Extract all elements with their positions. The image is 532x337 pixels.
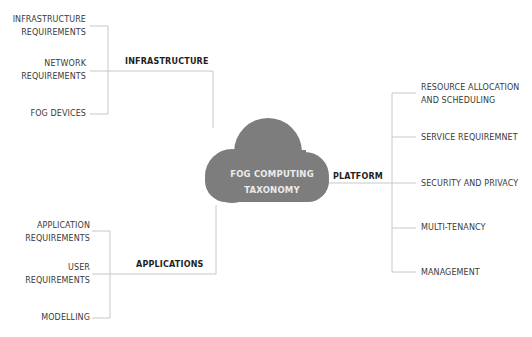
item-line: MODELLING [41, 311, 90, 324]
item-line: MANAGEMENT [421, 266, 480, 279]
category-applications: APPLICATIONS [136, 260, 204, 269]
item-line: REQUIREMENTS [25, 274, 90, 287]
item-line: SERVICE REQUIREMNET [421, 131, 518, 144]
center-node-label: FOG COMPUTING TAXONOMY [222, 166, 322, 198]
item-service-requirement: SERVICE REQUIREMNET [421, 131, 518, 144]
item-application-requirements: APPLICATION REQUIREMENTS [25, 219, 90, 245]
category-platform: PLATFORM [333, 172, 383, 181]
item-line: APPLICATION [25, 219, 90, 232]
item-infrastructure-requirements: INFRASTRUCTURE REQUIREMENTS [13, 13, 86, 39]
platform-ticks [392, 93, 416, 272]
item-line: FOG DEVICES [30, 107, 86, 120]
item-network-requirements: NETWORK REQUIREMENTS [21, 57, 86, 83]
item-line: RESOURCE ALLOCATION [421, 81, 519, 94]
item-line: AND SCHEDULING [421, 94, 519, 107]
item-line: INFRASTRUCTURE [13, 13, 86, 26]
infrastructure-bracket [90, 26, 108, 114]
item-fog-devices: FOG DEVICES [30, 107, 86, 120]
item-line: MULTI-TENANCY [421, 221, 486, 234]
item-security-privacy: SECURITY AND PRIVACY [421, 177, 518, 190]
item-modelling: MODELLING [41, 311, 90, 324]
item-resource-allocation: RESOURCE ALLOCATION AND SCHEDULING [421, 81, 519, 107]
item-multi-tenancy: MULTI-TENANCY [421, 221, 486, 234]
item-user-requirements: USER REQUIREMENTS [25, 261, 90, 287]
item-management: MANAGEMENT [421, 266, 480, 279]
category-infrastructure: INFRASTRUCTURE [125, 57, 209, 66]
item-line: USER [25, 261, 90, 274]
item-line: SECURITY AND PRIVACY [421, 177, 518, 190]
item-line: REQUIREMENTS [25, 232, 90, 245]
item-line: REQUIREMENTS [21, 70, 86, 83]
item-line: NETWORK [21, 57, 86, 70]
item-line: REQUIREMENTS [13, 26, 86, 39]
center-label-line2: TAXONOMY [222, 182, 322, 198]
center-label-line1: FOG COMPUTING [222, 166, 322, 182]
